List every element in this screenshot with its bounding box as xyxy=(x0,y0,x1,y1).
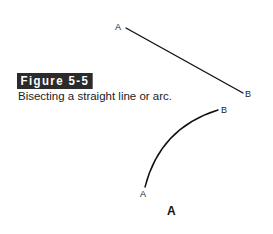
straight-line-group: A B xyxy=(115,22,251,99)
straight-line-segment xyxy=(126,28,243,93)
straight-line-point-b-label: B xyxy=(245,89,251,99)
bisect-diagram: A B A B A xyxy=(0,0,273,234)
straight-line-point-a-label: A xyxy=(115,22,121,32)
subfigure-label: A xyxy=(167,204,176,218)
arc-segment xyxy=(145,110,218,187)
arc-group: A B xyxy=(140,105,227,199)
arc-point-b-label: B xyxy=(221,105,227,115)
arc-point-a-label: A xyxy=(140,189,146,199)
